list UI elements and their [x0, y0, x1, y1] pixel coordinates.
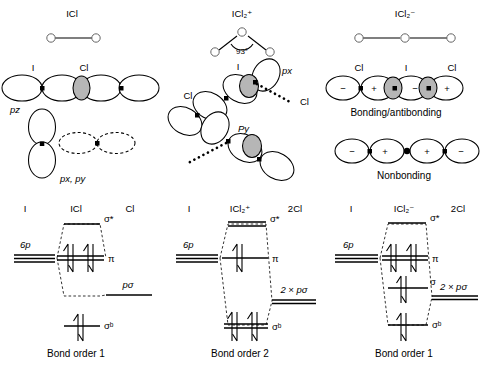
mo-level-label-pi: π	[432, 253, 439, 264]
mo-right-atom: 2Cl	[288, 203, 302, 214]
mo-left-level-label: 6p	[20, 239, 31, 250]
mo-diagram-icl2minus: I ICl₂⁻ 2Cl 6p 2 × pσ σ* π	[335, 203, 478, 359]
orbital-label-py: Py	[238, 123, 250, 134]
electron-pair	[64, 244, 74, 272]
electron-pair	[397, 276, 407, 303]
orbital-row-py: Py	[188, 107, 299, 186]
atom-label-Cl-right: Cl	[300, 96, 309, 107]
electron-pair	[248, 312, 258, 341]
atom-node	[266, 48, 274, 56]
electron-pair	[407, 244, 417, 272]
orbital-label-pz: pz	[9, 104, 20, 115]
node-dot	[404, 148, 410, 154]
mo-center-species: ICl	[70, 203, 82, 214]
atom-label-I: I	[32, 62, 35, 73]
atom-label-I: I	[237, 61, 240, 72]
mo-diagram-icl2plus: I ICl₂⁺ 2Cl 6p 2 × pσ σ* π	[176, 203, 316, 359]
atom-label-Cl-left: Cl	[184, 90, 193, 101]
orbital-sign: −	[412, 83, 418, 94]
orbital-label-px-py: px, py	[59, 173, 87, 184]
skeleton-icl2minus	[355, 34, 455, 42]
orbital-row-px: I Cl Cl px	[163, 54, 309, 141]
orbital-sign: −	[458, 146, 464, 157]
orbital-label-bonding-antibonding: Bonding/antibonding	[350, 107, 441, 118]
atom-node	[355, 34, 363, 42]
orbital-label-nonbonding: Nonbonding	[377, 170, 431, 181]
atom-node	[401, 34, 409, 42]
mo-caption-bond-order: Bond order 1	[47, 348, 105, 359]
mo-caption-bond-order: Bond order 2	[211, 348, 269, 359]
atom-node	[238, 28, 246, 36]
species-label-icl2minus: ICl₂⁻	[395, 8, 415, 19]
orbital-sign: +	[382, 146, 388, 157]
skeleton-icl	[47, 34, 100, 42]
mo-level-label-pi: π	[108, 253, 115, 264]
orbital-sign: +	[444, 83, 450, 94]
atom-label-I: I	[405, 62, 408, 73]
mo-left-level-label: 6p	[183, 239, 194, 250]
species-label-icl2plus: ICl₂⁺	[232, 8, 252, 19]
orbital-row-bonding-antibonding: Cl I Cl − + − + Bonding/antibonding	[326, 62, 463, 118]
mo-right-level-label: 2 × pσ	[439, 281, 468, 292]
orbital-sign: +	[424, 146, 430, 157]
mo-center-species: ICl₂⁻	[394, 203, 414, 214]
orbital-row-pz-sigma: I Cl pz	[2, 62, 159, 115]
column-icl2plus: ICl₂⁺ 93° I Cl Cl px	[163, 8, 316, 359]
mo-right-atom: 2Cl	[451, 203, 465, 214]
mo-level-label-sigma-star: σ*	[430, 212, 440, 223]
mo-level-label-pi: π	[272, 253, 279, 264]
figure-mo-interhalogens: ICl I Cl pz px, py	[0, 0, 489, 369]
orbital-label-px: px	[281, 65, 293, 76]
atom-node	[447, 34, 455, 42]
mo-left-atom: I	[188, 203, 191, 214]
mo-center-species: ICl₂⁺	[230, 203, 250, 214]
column-icl2minus: ICl₂⁻ Cl I Cl − + − + Bonding	[326, 8, 479, 359]
orbital-row-px-py: px, py	[29, 109, 136, 184]
electron-pair	[74, 314, 84, 341]
mo-level-label-sigma-b: σᵇ	[272, 321, 282, 332]
mo-level-label-sigma-star: σ*	[104, 213, 114, 224]
atom-node	[92, 34, 100, 42]
mo-caption-bond-order: Bond order 1	[375, 348, 433, 359]
atom-label-Cl-left: Cl	[355, 62, 364, 73]
mo-level-label-sigma: σ	[430, 276, 436, 287]
electron-pair	[84, 244, 94, 272]
mo-level-label-sigma-b: σᵇ	[432, 319, 442, 330]
atom-node	[211, 48, 219, 56]
mo-left-atom: I	[350, 203, 353, 214]
atom-node	[47, 34, 55, 42]
electron-pair	[228, 312, 238, 341]
figure-canvas: ICl I Cl pz px, py	[0, 0, 489, 369]
atom-label-Cl-right: Cl	[448, 62, 457, 73]
orbital-sign: +	[371, 83, 377, 94]
mo-left-level-label: 6p	[343, 239, 354, 250]
mo-right-level-label: 2 × pσ	[279, 284, 308, 295]
mo-diagram-icl: I ICl Cl 6p pσ σ* π	[14, 203, 152, 359]
skeleton-icl2plus: 93°	[211, 28, 274, 56]
electron-pair	[387, 244, 397, 272]
mo-level-label-sigma-star: σ*	[270, 213, 280, 224]
orbital-row-nonbonding: − + + − Nonbonding	[335, 139, 479, 181]
bond-angle-label: 93°	[236, 47, 248, 56]
column-icl: ICl I Cl pz px, py	[2, 8, 159, 359]
electron-pair	[397, 313, 407, 341]
mo-right-level-label: pσ	[121, 279, 134, 290]
orbital-sign: −	[349, 146, 355, 157]
mo-left-atom: I	[24, 203, 27, 214]
atom-label-Cl: Cl	[80, 62, 89, 73]
mo-level-label-sigma-b: σᵇ	[104, 320, 114, 331]
mo-right-atom: Cl	[126, 203, 135, 214]
orbital-sign: −	[340, 83, 346, 94]
species-label-icl: ICl	[66, 8, 78, 19]
